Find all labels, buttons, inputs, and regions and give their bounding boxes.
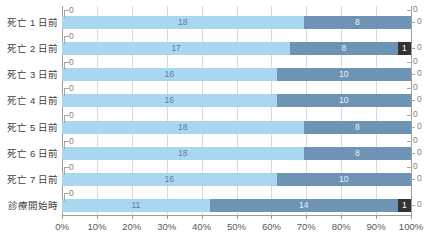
bar-segment-value: 1 [398, 42, 411, 55]
x-axis-tick [271, 215, 272, 219]
x-axis-tick [341, 215, 342, 219]
callout-leader-line [411, 205, 415, 206]
bar-row: 1781 [62, 42, 411, 55]
callout-leader-line [411, 74, 415, 75]
category-label: 死亡 1 日前 [0, 17, 58, 28]
bar-segment-value: 8 [304, 147, 411, 160]
callout-leader-line [411, 22, 415, 23]
category-label: 死亡 3 日前 [0, 69, 58, 80]
bar-segment: 8 [290, 42, 397, 55]
callout-leader-line [407, 88, 412, 96]
bar-segment: 10 [277, 173, 411, 186]
bar-row: 188 [62, 121, 411, 134]
callout-value: 0 [417, 200, 422, 209]
callout-value: 0 [417, 69, 422, 78]
callout-leader-line [411, 127, 415, 128]
bar-segment: 10 [277, 68, 411, 81]
x-axis-tick [62, 215, 63, 219]
callout-value: 0 [413, 136, 418, 145]
bar-segment: 17 [62, 42, 290, 55]
callout-value: 0 [69, 32, 74, 41]
callout-value: 0 [417, 43, 422, 52]
callout-leader-line [411, 48, 415, 49]
callout-value: 0 [417, 95, 422, 104]
x-axis-tick [237, 215, 238, 219]
bar-segment: 14 [210, 199, 398, 212]
bar-segment-value: 18 [62, 147, 304, 160]
bar-segment: 8 [304, 16, 411, 29]
callout-value: 0 [413, 5, 418, 14]
callout-value: 0 [413, 57, 418, 66]
callout-value: 0 [417, 174, 422, 183]
category-label: 死亡 6 日前 [0, 148, 58, 159]
callout-value: 0 [69, 111, 74, 120]
callout-leader-line [407, 10, 412, 18]
callout-value: 0 [413, 83, 418, 92]
plot-area: 1880001781001610000161000018800018800016… [62, 6, 411, 215]
callout-leader-line [411, 153, 415, 154]
callout-value: 0 [69, 84, 74, 93]
bar-segment: 10 [277, 94, 411, 107]
callout-leader-line [407, 167, 412, 175]
callout-value: 0 [413, 162, 418, 171]
category-label: 死亡 4 日前 [0, 95, 58, 106]
callout-value: 0 [413, 110, 418, 119]
callout-leader-line [411, 179, 415, 180]
bar-segment-value: 1 [398, 199, 411, 212]
bar-segment: 16 [62, 94, 277, 107]
x-axis-tick [411, 215, 412, 219]
callout-leader-line [407, 141, 412, 149]
callout-leader-line [407, 115, 412, 123]
bar-row: 11141 [62, 199, 411, 212]
x-axis-tick-label: 100% [391, 221, 431, 232]
bar-segment-value: 17 [62, 42, 290, 55]
bar-segment: 1 [398, 42, 411, 55]
callout-value: 0 [69, 137, 74, 146]
bar-segment-value: 8 [290, 42, 397, 55]
bar-segment-value: 18 [62, 16, 304, 29]
bar-segment: 16 [62, 173, 277, 186]
bar-segment-value: 8 [304, 121, 411, 134]
bar-row: 1610 [62, 94, 411, 107]
x-axis-tick [306, 215, 307, 219]
bar-segment-value: 16 [62, 94, 277, 107]
x-axis-tick [202, 215, 203, 219]
bar-segment-value: 10 [277, 173, 411, 186]
callout-value: 0 [69, 189, 74, 198]
bar-segment-value: 18 [62, 121, 304, 134]
bar-segment: 8 [304, 147, 411, 160]
callout-value: 0 [417, 17, 422, 26]
bar-row: 1610 [62, 68, 411, 81]
x-axis-tick [167, 215, 168, 219]
bar-segment: 16 [62, 68, 277, 81]
bar-segment-value: 16 [62, 68, 277, 81]
x-axis-tick [97, 215, 98, 219]
bar-segment: 18 [62, 147, 304, 160]
bar-row: 1610 [62, 173, 411, 186]
callout-value: 0 [417, 122, 422, 131]
bar-segment-value: 8 [304, 16, 411, 29]
callout-value: 0 [69, 163, 74, 172]
category-label: 死亡 7 日前 [0, 174, 58, 185]
bar-segment: 18 [62, 121, 304, 134]
category-label: 診療開始時 [0, 200, 58, 211]
callout-leader-line [411, 100, 415, 101]
bar-row: 188 [62, 16, 411, 29]
bar-segment-value: 10 [277, 68, 411, 81]
stacked-bar-chart: 1880001781001610000161000018800018800016… [0, 0, 441, 241]
bar-segment-value: 11 [62, 199, 210, 212]
bar-row: 188 [62, 147, 411, 160]
bar-segment: 11 [62, 199, 210, 212]
bar-segment-value: 16 [62, 173, 277, 186]
category-label: 死亡 2 日前 [0, 43, 58, 54]
callout-leader-line [407, 62, 412, 70]
callout-value: 0 [69, 6, 74, 15]
gridline-100pct [411, 6, 412, 215]
callout-value: 0 [69, 58, 74, 67]
bar-segment: 18 [62, 16, 304, 29]
callout-value: 0 [417, 148, 422, 157]
bar-segment-value: 10 [277, 94, 411, 107]
bar-segment: 1 [398, 199, 411, 212]
x-axis-tick [376, 215, 377, 219]
x-axis-tick [132, 215, 133, 219]
